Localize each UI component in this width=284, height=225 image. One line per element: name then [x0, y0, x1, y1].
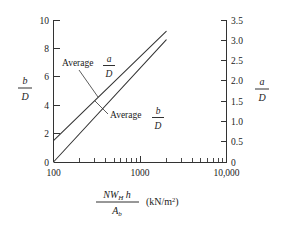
left-tick-label-6: 6 — [44, 72, 49, 82]
annotation-a-over-d-denominator: D — [105, 69, 113, 79]
left-axis-title-denominator: D — [20, 91, 29, 102]
x-tick-label-1000: 1000 — [131, 168, 150, 178]
x-tick-label-100: 100 — [46, 168, 61, 178]
x-tick-label-10000: 10,000 — [213, 168, 239, 178]
right-axis-title-numerator: a — [260, 76, 265, 87]
right-tick-label-0: 0 — [231, 158, 236, 168]
x-axis-units-close: ) — [175, 196, 178, 208]
right-tick-label-3p0: 3.0 — [231, 36, 243, 46]
annotation-b-over-d-denominator: D — [154, 121, 162, 131]
left-axis-title-numerator: b — [23, 75, 28, 86]
annotation-b-over-d-numerator: b — [156, 106, 161, 116]
chart-background — [0, 0, 284, 225]
right-tick-label-0p5: 0.5 — [231, 137, 243, 147]
right-tick-label-2p5: 2.5 — [231, 56, 243, 66]
right-tick-label-2p0: 2.0 — [231, 76, 243, 86]
left-tick-label-2: 2 — [44, 129, 49, 139]
left-tick-label-10: 10 — [40, 16, 50, 26]
left-tick-label-0: 0 — [44, 158, 49, 168]
annotation-b-over-d-word: Average — [110, 110, 141, 120]
right-tick-label-1p5: 1.5 — [231, 97, 243, 107]
right-axis-title-denominator: D — [257, 92, 266, 103]
x-axis-numerator-subscript: H — [117, 194, 124, 202]
right-tick-label-3p5: 3.5 — [231, 16, 243, 26]
left-tick-label-4: 4 — [44, 101, 49, 111]
chart-figure: 10 8 6 4 2 0 b D 3.5 3.0 2.5 2.0 1.5 1.0… — [0, 0, 284, 225]
annotation-a-over-d-numerator: a — [107, 54, 112, 64]
left-tick-label-8: 8 — [44, 44, 49, 54]
x-axis-numerator-suffix: h — [126, 189, 131, 200]
right-tick-label-1p0: 1.0 — [231, 117, 243, 127]
chart-svg: 10 8 6 4 2 0 b D 3.5 3.0 2.5 2.0 1.5 1.0… — [0, 0, 284, 225]
annotation-a-over-d-word: Average — [62, 58, 93, 68]
x-axis-units-open: (kN/m — [146, 196, 172, 208]
x-axis-denominator-subscript: b — [118, 210, 122, 218]
